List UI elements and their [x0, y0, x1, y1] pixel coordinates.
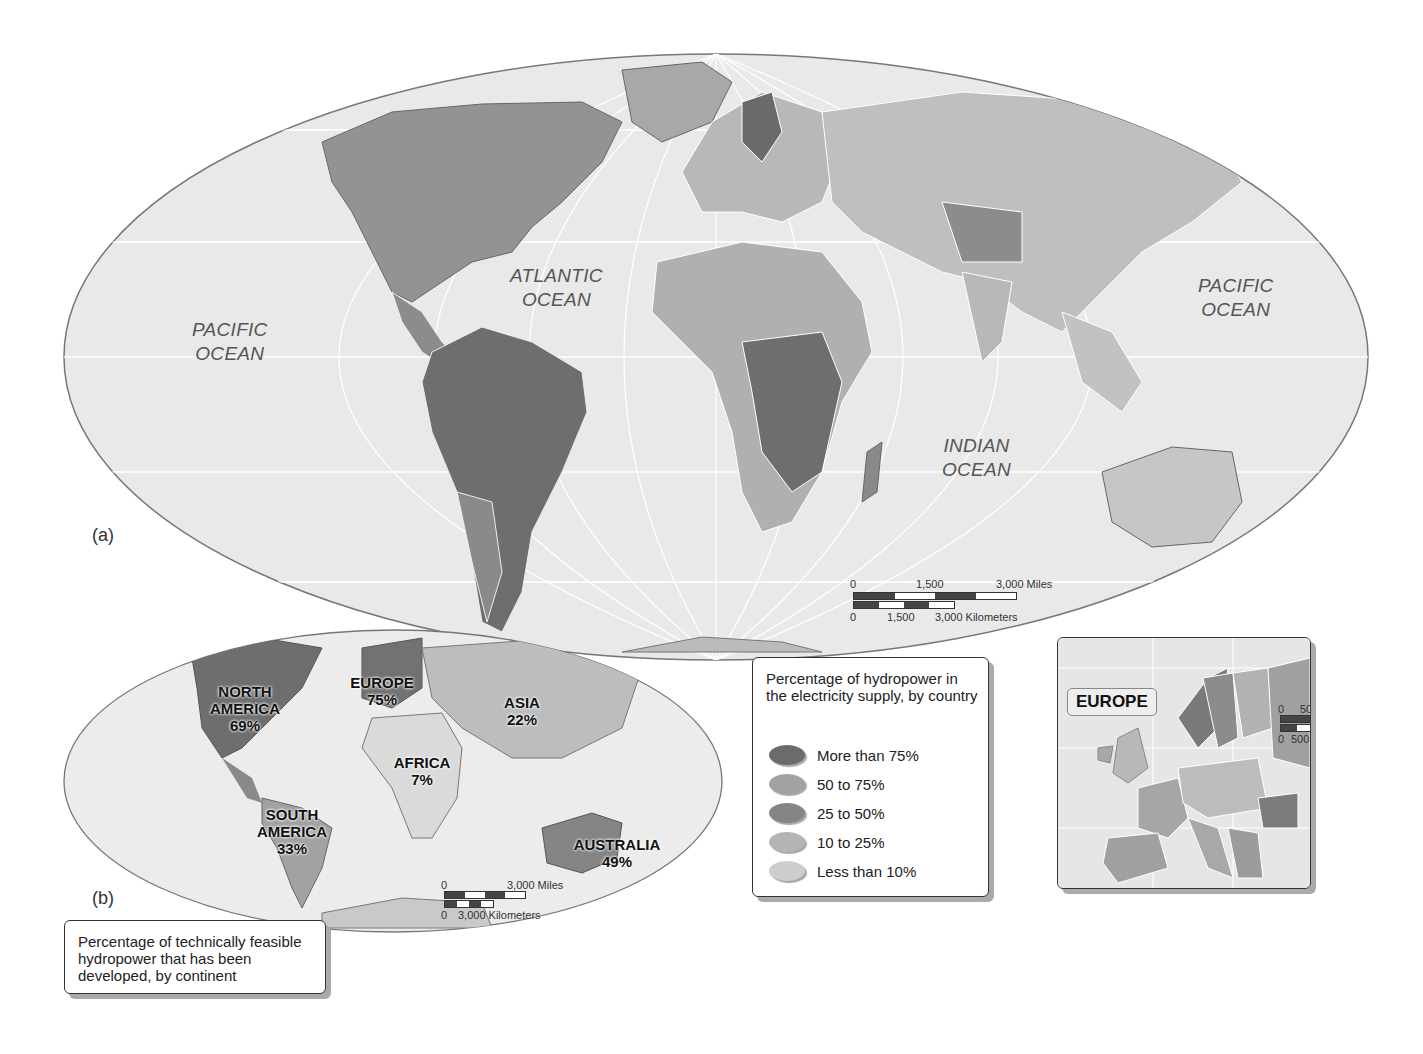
- europe-inset-map: EUROPE 0 500 Mi 0 500 Km: [1057, 637, 1311, 889]
- legend-label: 10 to 25%: [817, 834, 885, 851]
- legend-swatch-icon: [769, 745, 805, 765]
- legend-swatch-icon: [769, 832, 805, 852]
- scale-miles-end: 500 Mi: [1300, 703, 1311, 715]
- ocean-label-atlantic: ATLANTIC OCEAN: [510, 264, 603, 312]
- continent-name: ASIA: [482, 694, 562, 711]
- continent-value: 49%: [552, 853, 682, 870]
- ocean-label-pacific-east: PACIFIC OCEAN: [1198, 274, 1274, 322]
- legend-item-less-than-10: Less than 10%: [769, 860, 916, 882]
- continent-south-america: SOUTH AMERICA 33%: [242, 806, 342, 857]
- legend-label: 50 to 75%: [817, 776, 885, 793]
- scale-bar-km: [1280, 724, 1311, 732]
- ocean-label-pacific-west: PACIFIC OCEAN: [192, 318, 268, 366]
- panel-label-b: (b): [92, 888, 114, 909]
- continent-north-america: NORTH AMERICA 69%: [190, 683, 300, 734]
- legend-swatch-icon: [769, 774, 805, 794]
- legend-label: Less than 10%: [817, 863, 916, 880]
- legend-item-more-than-75: More than 75%: [769, 744, 919, 766]
- scale-miles-start: 0: [850, 578, 856, 590]
- continent-name: NORTH AMERICA: [205, 683, 285, 717]
- panel-label-a: (a): [92, 525, 114, 546]
- continent-australia: AUSTRALIA 49%: [552, 836, 682, 870]
- continent-europe: EUROPE 75%: [337, 674, 427, 708]
- scale-km-end: 3,000 Kilometers: [458, 909, 541, 921]
- continent-name: AFRICA: [377, 754, 467, 771]
- scale-bar-miles: [1280, 715, 1311, 723]
- scale-bar-km: [853, 601, 955, 609]
- continent-value: 22%: [482, 711, 562, 728]
- scale-miles-start: 0: [1278, 703, 1284, 715]
- scale-km-end: 500 Km: [1291, 733, 1311, 745]
- scale-bar-map-a: 0 1,500 3,000 Miles 0 1,500 3,000 Kilome…: [850, 578, 1070, 626]
- europe-inset-title: EUROPE: [1067, 688, 1157, 716]
- continent-value: 7%: [377, 771, 467, 788]
- continent-hydropower-map: NORTH AMERICA 69% EUROPE 75% ASIA 22% AF…: [62, 628, 724, 934]
- legend-label: 25 to 50%: [817, 805, 885, 822]
- scale-km-end: 3,000 Kilometers: [935, 611, 1018, 623]
- continent-name: EUROPE: [337, 674, 427, 691]
- continent-name: AUSTRALIA: [552, 836, 682, 853]
- scale-bar-miles: [853, 592, 1017, 600]
- scale-miles-mid: 1,500: [916, 578, 944, 590]
- scale-km-start: 0: [850, 611, 856, 623]
- continent-name: SOUTH AMERICA: [250, 806, 334, 840]
- continent-value: 69%: [190, 717, 300, 734]
- continent-value: 33%: [242, 840, 342, 857]
- caption-text: Percentage of technically feasible hydro…: [78, 933, 318, 984]
- scale-bar-map-b: 0 3,000 Miles 0 3,000 Kilometers: [441, 879, 581, 925]
- legend-item-50-to-75: 50 to 75%: [769, 773, 885, 795]
- continent-africa: AFRICA 7%: [377, 754, 467, 788]
- legend-title: Percentage of hydropower in the electric…: [766, 670, 981, 704]
- scale-miles-start: 0: [441, 879, 447, 891]
- scale-bar-europe: 0 500 Mi 0 500 Km: [1278, 703, 1311, 747]
- scale-bar-km: [444, 900, 494, 908]
- ocean-label-indian: INDIAN OCEAN: [942, 434, 1011, 482]
- continent-value: 75%: [337, 691, 427, 708]
- legend-swatch-icon: [769, 861, 805, 881]
- hydropower-legend: Percentage of hydropower in the electric…: [752, 657, 989, 897]
- legend-swatch-icon: [769, 803, 805, 823]
- scale-miles-end: 3,000 Miles: [507, 879, 563, 891]
- legend-item-25-to-50: 25 to 50%: [769, 802, 885, 824]
- scale-km-start: 0: [441, 909, 447, 921]
- scale-km-mid: 1,500: [887, 611, 915, 623]
- world-hydropower-map: PACIFIC OCEAN ATLANTIC OCEAN INDIAN OCEA…: [62, 52, 1370, 662]
- legend-item-10-to-25: 10 to 25%: [769, 831, 885, 853]
- continent-asia: ASIA 22%: [482, 694, 562, 728]
- europe-map-graphic: [1058, 638, 1310, 888]
- scale-km-start: 0: [1278, 733, 1284, 745]
- continent-map-caption: Percentage of technically feasible hydro…: [64, 920, 326, 994]
- scale-miles-end: 3,000 Miles: [996, 578, 1052, 590]
- legend-label: More than 75%: [817, 747, 919, 764]
- scale-bar-miles: [444, 891, 526, 899]
